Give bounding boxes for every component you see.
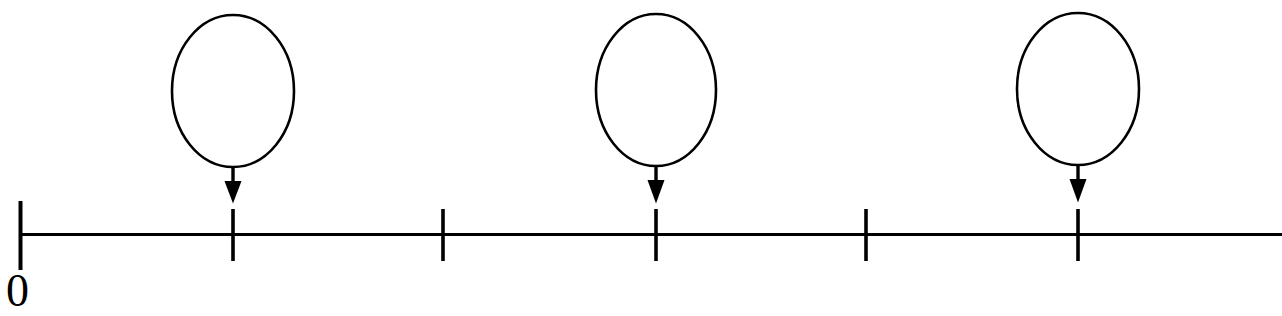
balloon-marker-3 xyxy=(1017,13,1139,203)
arrow-head-3 xyxy=(1070,179,1087,203)
ellipse-outline-2 xyxy=(596,14,716,166)
balloon-marker-1 xyxy=(172,15,294,204)
balloon-marker-2 xyxy=(596,14,716,204)
number-line-diagram xyxy=(0,0,1282,316)
origin-label: 0 xyxy=(6,268,29,314)
arrow-head-1 xyxy=(225,181,242,204)
diagram-canvas: 0 xyxy=(0,0,1282,316)
ellipse-outline-3 xyxy=(1017,13,1139,165)
arrow-head-2 xyxy=(648,180,665,204)
ellipse-outline-1 xyxy=(172,15,294,167)
